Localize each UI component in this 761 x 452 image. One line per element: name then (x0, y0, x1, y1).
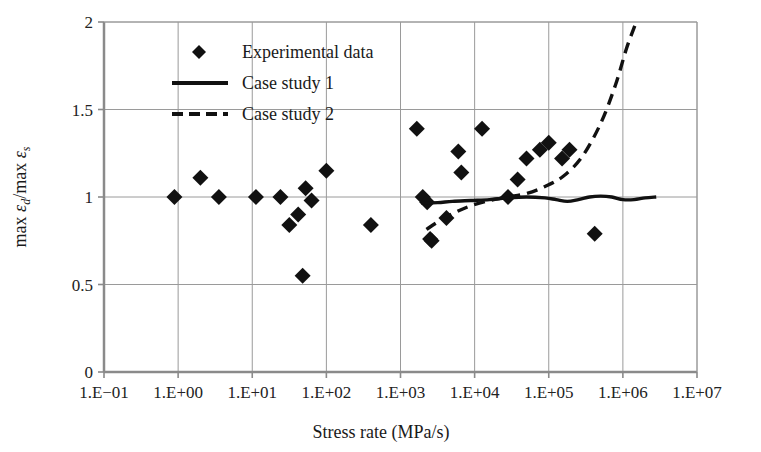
legend-label: Case study 1 (242, 73, 334, 93)
x-tick-label: 1.E+07 (672, 383, 722, 402)
legend-label: Case study 2 (242, 104, 334, 124)
x-tick-label: 1.E+00 (153, 383, 203, 402)
chart-figure: 1.E−011.E+001.E+011.E+021.E+031.E+041.E+… (0, 0, 761, 452)
y-tick-label: 0 (85, 363, 94, 382)
x-tick-labels: 1.E−011.E+001.E+011.E+021.E+031.E+041.E+… (79, 383, 722, 402)
x-tick-label: 1.E+06 (598, 383, 648, 402)
x-tick-label: 1.E+03 (376, 383, 426, 402)
x-tick-label: 1.E+05 (524, 383, 574, 402)
svg-text:max εd/max εs: max εd/max εs (10, 146, 33, 247)
x-tick-label: 1.E+02 (302, 383, 352, 402)
chart-canvas: 1.E−011.E+001.E+011.E+021.E+031.E+041.E+… (0, 0, 761, 452)
y-axis-title-prefix1: max (10, 212, 30, 248)
x-axis-title: Stress rate (MPa/s) (313, 422, 450, 443)
y-tick-label: 2 (85, 13, 94, 32)
y-tick-label: 1 (85, 188, 94, 207)
x-tick-label: 1.E+01 (227, 383, 277, 402)
y-tick-label: 1.5 (72, 101, 93, 120)
legend-label: Experimental data (242, 42, 373, 62)
x-tick-label: 1.E+04 (450, 383, 500, 402)
y-axis-title-slash: /max (10, 158, 30, 199)
y-axis-title-sub2: s (19, 146, 33, 151)
y-axis-title: max εd/max εs (10, 146, 33, 247)
x-tick-label: 1.E−01 (79, 383, 129, 402)
y-tick-label: 0.5 (72, 276, 93, 295)
